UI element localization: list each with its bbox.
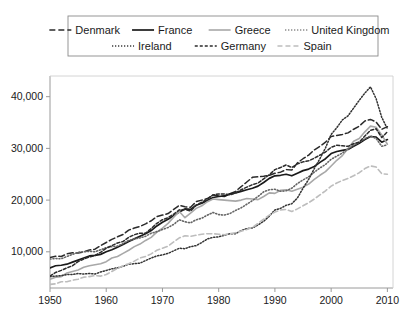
legend-item-label: France <box>158 24 192 36</box>
data-line-spain <box>50 166 387 284</box>
x-axis-tick-label: 2010 <box>376 294 400 306</box>
x-axis-tick-label: 1980 <box>207 294 231 306</box>
legend-item-label: Germany <box>221 40 267 52</box>
data-lines-group <box>50 87 387 285</box>
line-chart: DenmarkFranceGreeceUnited KingdomIreland… <box>0 0 415 320</box>
x-axis-tick-label: 1960 <box>95 294 119 306</box>
x-axis-tick-label: 1950 <box>38 294 62 306</box>
data-line-ireland <box>50 87 387 277</box>
legend-item-label: Greece <box>235 24 271 36</box>
data-line-united-kingdom <box>50 136 387 259</box>
chart-container: DenmarkFranceGreeceUnited KingdomIreland… <box>0 0 415 320</box>
legend-item-label: Spain <box>303 40 331 52</box>
legend-item-label: Ireland <box>138 40 172 52</box>
data-line-denmark <box>50 119 387 257</box>
y-axis-tick-label: 10,000 <box>11 245 43 257</box>
y-axis-tick-label: 40,000 <box>11 90 43 102</box>
x-axis-tick-label: 1990 <box>263 294 287 306</box>
legend-item[interactable]: Denmark <box>49 24 120 36</box>
data-line-greece <box>50 126 387 279</box>
x-axis-tick-label: 2000 <box>319 294 343 306</box>
legend-item-label: United Kingdom <box>311 24 389 36</box>
y-axis-tick-label: 20,000 <box>11 194 43 206</box>
x-axis-tick-label: 1970 <box>151 294 175 306</box>
legend-item-label: Denmark <box>75 24 120 36</box>
y-axis-tick-label: 30,000 <box>11 142 43 154</box>
